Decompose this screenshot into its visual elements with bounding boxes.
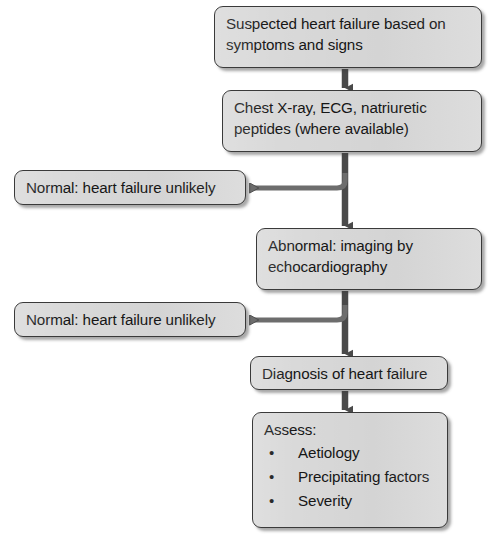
assess-item-label: Severity: [298, 489, 352, 513]
bullet-icon: •: [264, 489, 298, 513]
node-diagnosis-line-1: Diagnosis of heart failure: [262, 363, 437, 384]
node-abnormal-echocardiography: Abnormal: imaging by echocardiography: [256, 228, 482, 290]
node-tests-line-2: peptides (where available): [234, 118, 471, 139]
flowchart-canvas: Suspected heart failure based on symptom…: [0, 0, 488, 535]
node-normal-1-line-1: Normal: heart failure unlikely: [26, 177, 235, 198]
node-normal-2-line-1: Normal: heart failure unlikely: [26, 309, 235, 330]
node-abnormal-line-1: Abnormal: imaging by: [268, 235, 471, 256]
list-item: • Aetiology: [264, 441, 437, 465]
edge-abnormal-to-normal-2: [250, 305, 345, 320]
assess-item-label: Precipitating factors: [298, 465, 429, 489]
node-normal-heart-failure-unlikely-1: Normal: heart failure unlikely: [14, 170, 246, 205]
bullet-icon: •: [264, 441, 298, 465]
assess-item-label: Aetiology: [298, 441, 360, 465]
node-suspected-heart-failure: Suspected heart failure based on symptom…: [214, 6, 482, 68]
assess-list: • Aetiology • Precipitating factors • Se…: [264, 441, 437, 513]
list-item: • Severity: [264, 489, 437, 513]
edge-tests-to-normal-1: [250, 173, 345, 188]
node-suspected-line-2: symptoms and signs: [226, 34, 471, 55]
node-initial-tests: Chest X-ray, ECG, natriuretic peptides (…: [222, 90, 482, 152]
node-abnormal-line-2: echocardiography: [268, 256, 471, 277]
bullet-icon: •: [264, 465, 298, 489]
node-assess: Assess: • Aetiology • Precipitating fact…: [252, 412, 448, 528]
node-diagnosis-of-heart-failure: Diagnosis of heart failure: [250, 356, 448, 390]
node-tests-line-1: Chest X-ray, ECG, natriuretic: [234, 97, 471, 118]
node-suspected-line-1: Suspected heart failure based on: [226, 13, 471, 34]
assess-title: Assess:: [264, 419, 437, 440]
node-normal-heart-failure-unlikely-2: Normal: heart failure unlikely: [14, 302, 246, 337]
list-item: • Precipitating factors: [264, 465, 437, 489]
